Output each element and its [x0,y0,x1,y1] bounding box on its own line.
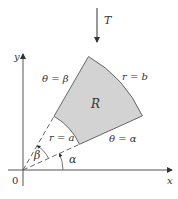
y-axis-label: y [13,51,20,62]
x-axis-label: x [167,175,173,186]
outer-arc-label: r = b [122,71,148,82]
alpha-label: α [69,153,77,166]
beta-label: β [33,149,40,162]
region-label: R [90,97,100,111]
lower-ray-label: θ = α [109,133,137,144]
origin-label: 0 [12,175,18,186]
upper-ray-label: θ = β [42,73,69,84]
polar-region-diagram: T x y 0 α β R θ = β r = b r = a θ = α [0,0,178,199]
alpha-angle-arc [59,154,63,171]
inner-arc-label: r = a [49,132,75,143]
transform-label: T [104,14,113,27]
